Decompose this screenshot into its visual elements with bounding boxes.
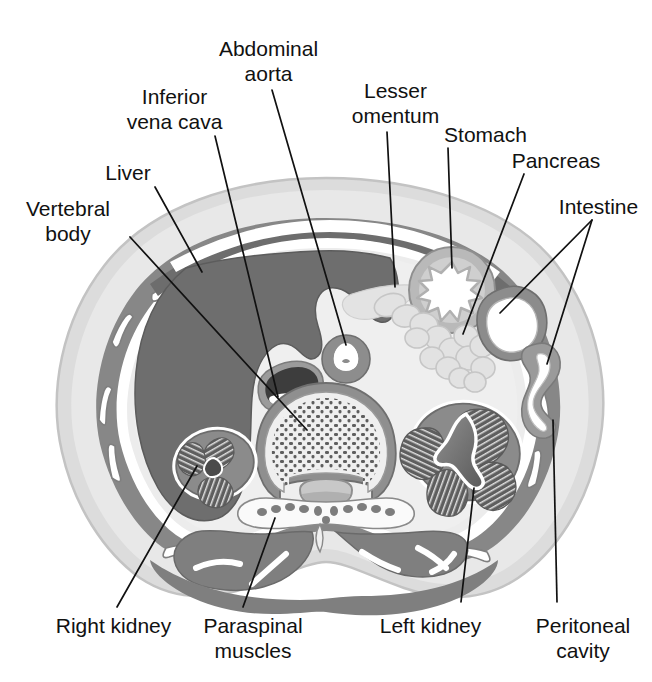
label-right-kidney: Right kidney: [36, 613, 191, 638]
label-abdominal-aorta: Abdominal aorta: [196, 36, 341, 86]
label-peritoneal-cavity: Peritoneal cavity: [513, 613, 652, 663]
label-liver: Liver: [88, 160, 168, 185]
label-stomach: Stomach: [430, 122, 541, 147]
label-lesser-omentum: Lesser omentum: [329, 78, 462, 128]
anatomy-figure: Vertebral bodyLiverInferior vena cavaAbd…: [0, 0, 652, 682]
cross-section-illustration: [0, 0, 652, 682]
label-pancreas: Pancreas: [497, 148, 615, 173]
label-vertebral-body: Vertebral body: [8, 196, 128, 246]
label-left-kidney: Left kidney: [358, 613, 503, 638]
label-paraspinal-muscles: Paraspinal muscles: [183, 613, 323, 663]
label-intestine: Intestine: [545, 194, 652, 219]
label-inferior-vena-cava: Inferior vena cava: [112, 84, 237, 134]
